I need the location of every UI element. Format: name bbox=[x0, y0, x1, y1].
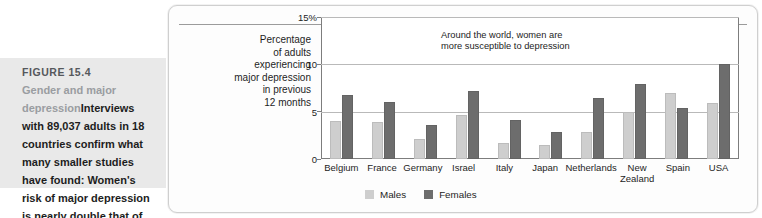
bar-group bbox=[697, 17, 739, 159]
chart-annotation: Around the world, women are more suscept… bbox=[441, 30, 586, 52]
bar-males bbox=[456, 115, 467, 159]
x-axis-label: Germany bbox=[403, 162, 444, 186]
bar-females bbox=[342, 95, 353, 159]
x-axis-labels: BelgiumFranceGermanyIsraelItalyJapanNeth… bbox=[321, 162, 739, 186]
y-axis-title-line: in previous bbox=[193, 84, 311, 97]
figure-caption-text: Gender and major depressionInterviews wi… bbox=[22, 80, 158, 218]
figure-root: FIGURE 15.4 Gender and major depressionI… bbox=[0, 0, 762, 218]
bar-females bbox=[426, 125, 437, 159]
chart-panel: Percentage of adults experiencing major … bbox=[168, 5, 758, 213]
x-axis-label: New Zealand bbox=[617, 162, 658, 186]
bar-males bbox=[372, 122, 383, 159]
bar-males bbox=[581, 132, 592, 159]
legend-item-females: Females bbox=[424, 189, 477, 200]
bar-females bbox=[468, 91, 479, 159]
bar-group bbox=[321, 17, 363, 159]
legend-item-males: Males bbox=[365, 189, 406, 200]
figure-body-text: Interviews with 89,037 adults in 18 coun… bbox=[22, 102, 150, 218]
y-axis-tick-label: 15% bbox=[298, 12, 317, 23]
bar-males bbox=[539, 145, 550, 159]
bar-females bbox=[635, 84, 646, 159]
y-axis-tick-label: 10 bbox=[306, 59, 317, 70]
x-axis-label: Israel bbox=[443, 162, 484, 186]
x-axis-label: Netherlands bbox=[566, 162, 617, 186]
figure-number: FIGURE 15.4 bbox=[22, 66, 158, 79]
bar-males bbox=[665, 93, 676, 159]
bar-males bbox=[498, 143, 509, 159]
y-axis-tick-label: 5 bbox=[312, 106, 317, 117]
y-axis-title-line: of adults bbox=[193, 47, 311, 60]
bar-females bbox=[384, 102, 395, 159]
x-axis-label: Belgium bbox=[321, 162, 362, 186]
bar-males bbox=[707, 103, 718, 159]
x-axis-label: Spain bbox=[657, 162, 698, 186]
x-axis-label: France bbox=[362, 162, 403, 186]
x-axis-label: USA bbox=[698, 162, 739, 186]
bar-males bbox=[330, 121, 341, 159]
bar-males bbox=[623, 112, 634, 159]
legend-label-males: Males bbox=[380, 189, 406, 200]
bar-group bbox=[363, 17, 405, 159]
bar-females bbox=[593, 98, 604, 159]
x-axis-label: Japan bbox=[525, 162, 566, 186]
y-axis-title-line: experiencing bbox=[193, 59, 311, 72]
chart-legend: Males Females bbox=[365, 189, 477, 200]
bar-group bbox=[614, 17, 656, 159]
legend-label-females: Females bbox=[439, 189, 477, 200]
y-axis-tick-label: 0 bbox=[312, 154, 317, 165]
legend-swatch-females-icon bbox=[424, 190, 433, 199]
bar-males bbox=[414, 139, 425, 159]
y-axis-title-line: Percentage bbox=[193, 34, 311, 47]
bar-females bbox=[510, 120, 521, 159]
bar-females bbox=[551, 132, 562, 159]
y-axis-title-line: major depression bbox=[193, 72, 311, 85]
x-axis-label: Italy bbox=[484, 162, 525, 186]
figure-caption-band: FIGURE 15.4 Gender and major depressionI… bbox=[0, 58, 166, 188]
bar-females bbox=[719, 64, 730, 159]
y-axis-title: Percentage of adults experiencing major … bbox=[193, 34, 311, 110]
bar-group bbox=[655, 17, 697, 159]
y-axis-title-line: 12 months bbox=[193, 97, 311, 110]
bar-females bbox=[677, 108, 688, 159]
legend-swatch-males-icon bbox=[365, 190, 374, 199]
